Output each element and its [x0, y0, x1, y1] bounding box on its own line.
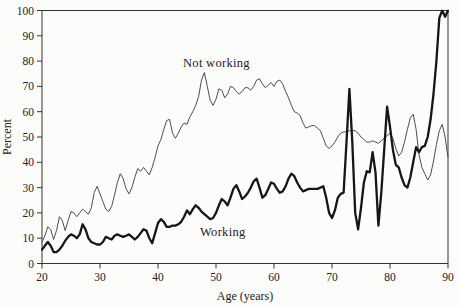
y-tick-label-30: 30: [23, 182, 35, 194]
y-tick-label-90: 90: [23, 30, 35, 42]
line-not-working: [42, 73, 448, 243]
y-tick-label-20: 20: [23, 207, 35, 219]
x-tick-label-70: 70: [326, 271, 338, 283]
y-tick-label-70: 70: [23, 80, 35, 92]
chart-figure: 20304050607080900102030405060708090100 P…: [0, 0, 460, 306]
x-tick-label-50: 50: [210, 271, 222, 283]
line-working: [42, 11, 448, 253]
x-tick-label-20: 20: [36, 271, 48, 283]
series-lines: [42, 11, 448, 253]
y-tick-label-60: 60: [23, 106, 35, 118]
x-tick-label-90: 90: [442, 271, 454, 283]
x-tick-label-40: 40: [152, 271, 164, 283]
age-working-chart: 20304050607080900102030405060708090100 P…: [0, 0, 460, 306]
y-tick-label-10: 10: [23, 232, 35, 244]
x-tick-label-60: 60: [268, 271, 280, 283]
working-series-label: Working: [200, 225, 246, 239]
y-tick-label-100: 100: [17, 5, 35, 17]
y-tick-label-40: 40: [23, 156, 35, 168]
y-axis-title: Percent: [0, 118, 14, 155]
x-axis-title: Age (years): [217, 289, 273, 303]
axis-tick-labels: 20304050607080900102030405060708090100: [17, 5, 454, 284]
not-working-series-label: Not working: [183, 56, 250, 70]
y-tick-label-80: 80: [23, 55, 35, 67]
y-tick-label-50: 50: [23, 131, 35, 143]
y-tick-label-0: 0: [28, 258, 34, 270]
x-tick-label-30: 30: [94, 271, 106, 283]
x-tick-label-80: 80: [384, 271, 396, 283]
